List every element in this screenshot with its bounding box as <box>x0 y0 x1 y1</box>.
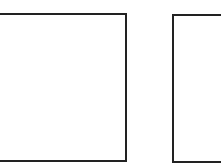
right-square-outline <box>172 14 221 163</box>
left-square-outline <box>0 13 127 162</box>
